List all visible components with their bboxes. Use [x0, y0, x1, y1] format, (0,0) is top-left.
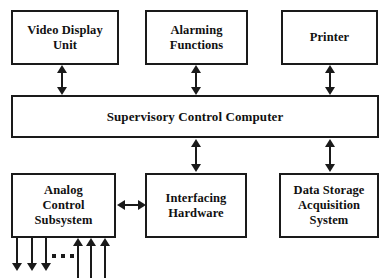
ellipsis-dot: [52, 254, 56, 258]
block-interfacing-hardware[interactable]: Interfacing Hardware: [145, 173, 247, 238]
connector-line: [195, 145, 197, 166]
ellipsis-dot: [70, 254, 74, 258]
block-label: Video Display Unit: [24, 23, 106, 53]
block-label: Interfacing Hardware: [163, 191, 230, 221]
block-label: Data Storage Acquisition System: [291, 183, 368, 227]
arrow-down-icon: [12, 263, 22, 271]
arrow-down-icon: [325, 87, 335, 95]
arrow-down-icon: [27, 263, 37, 271]
block-video-display-unit[interactable]: Video Display Unit: [11, 10, 119, 65]
block-data-storage-acquisition-system[interactable]: Data Storage Acquisition System: [279, 173, 379, 238]
block-label: Supervisory Control Computer: [104, 109, 287, 124]
block-label: Alarming Functions: [167, 23, 227, 53]
block-supervisory-control-computer[interactable]: Supervisory Control Computer: [11, 95, 379, 138]
arrow-down-icon: [191, 87, 201, 95]
signal-line: [104, 244, 106, 278]
signal-line: [31, 238, 33, 265]
arrow-down-icon: [57, 87, 67, 95]
block-label: Printer: [307, 30, 353, 45]
arrow-down-icon: [41, 263, 51, 271]
arrow-right-icon: [138, 200, 146, 210]
signal-ellipsis: [52, 254, 74, 258]
block-alarming-functions[interactable]: Alarming Functions: [145, 10, 248, 65]
signal-line: [77, 244, 79, 278]
block-label: Analog Control Subsystem: [32, 183, 96, 227]
block-printer[interactable]: Printer: [281, 10, 378, 65]
block-analog-control-subsystem[interactable]: Analog Control Subsystem: [11, 173, 116, 238]
connector-line: [329, 145, 331, 166]
block-diagram-canvas: Video Display Unit Alarming Functions Pr…: [0, 0, 388, 278]
signal-line: [45, 238, 47, 265]
signal-line: [16, 238, 18, 265]
signal-line: [90, 244, 92, 278]
ellipsis-dot: [61, 254, 65, 258]
arrow-down-icon: [191, 164, 201, 172]
arrow-down-icon: [325, 164, 335, 172]
